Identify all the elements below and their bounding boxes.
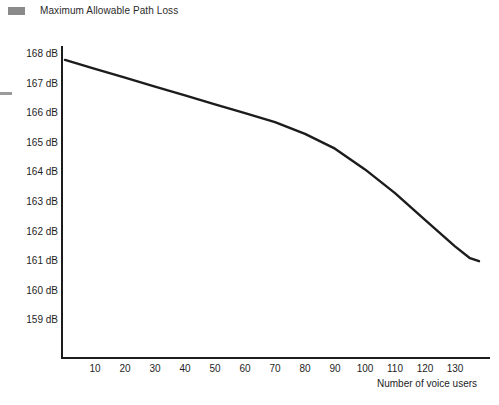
plot-area: 168 dB167 dB166 dB165 dB164 dB163 dB162 … — [0, 0, 499, 405]
series-line-maximum-allowable-path-loss — [65, 60, 479, 261]
series-line-group — [0, 0, 499, 405]
chart-canvas: Maximum Allowable Path Loss 168 dB167 dB… — [0, 0, 499, 405]
x-axis-title: Number of voice users — [377, 378, 477, 389]
